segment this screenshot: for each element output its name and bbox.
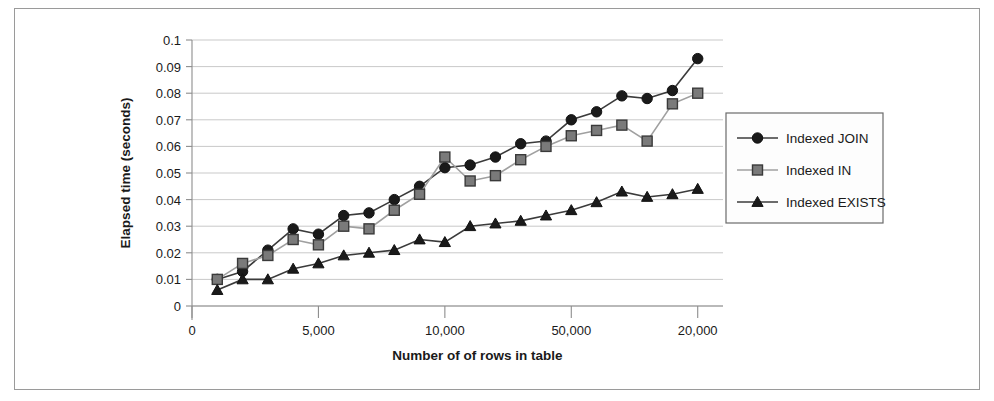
series-1-marker-6 <box>364 224 374 234</box>
series-0-marker-18 <box>667 85 677 95</box>
y-tick-label-9: 0.09 <box>156 60 181 75</box>
x-tick-label-1: 5,000 <box>302 323 335 338</box>
y-tick-label-7: 0.07 <box>156 113 181 128</box>
series-1-marker-18 <box>667 99 677 109</box>
y-tick-label-2: 0.02 <box>156 246 181 261</box>
series-1-marker-17 <box>642 136 652 146</box>
series-1-marker-13 <box>541 141 551 151</box>
series-1-marker-7 <box>389 205 399 215</box>
series-0-marker-3 <box>288 224 298 234</box>
x-tick-label-3: 50,000 <box>551 323 591 338</box>
series-0-marker-19 <box>693 53 703 63</box>
y-tick-label-6: 0.06 <box>156 139 181 154</box>
y-tick-label-5: 0.05 <box>156 166 181 181</box>
series-0-marker-11 <box>490 152 500 162</box>
series-1-marker-8 <box>415 189 425 199</box>
legend-1-marker-0 <box>753 165 763 175</box>
y-tick-label-1: 0.01 <box>156 272 181 287</box>
legend-label-1: Indexed IN <box>786 163 851 178</box>
x-tick-label-4: 20,000 <box>678 323 718 338</box>
series-1-marker-2 <box>263 250 273 260</box>
series-1-marker-3 <box>288 235 298 245</box>
series-1-marker-12 <box>516 155 526 165</box>
series-0-marker-10 <box>465 160 475 170</box>
series-0-marker-7 <box>389 194 399 204</box>
x-tick-label-0: 0 <box>188 323 195 338</box>
x-axis-title: Number of of rows in table <box>392 348 563 363</box>
series-0-marker-6 <box>364 208 374 218</box>
series-1-marker-11 <box>490 171 500 181</box>
series-1-marker-1 <box>238 258 248 268</box>
series-1-marker-10 <box>465 176 475 186</box>
series-1-marker-4 <box>313 240 323 250</box>
legend-label-0: Indexed JOIN <box>786 131 869 146</box>
series-1-marker-16 <box>617 120 627 130</box>
legend-label-2: Indexed EXISTS <box>786 195 886 210</box>
series-0-marker-12 <box>516 139 526 149</box>
y-tick-label-0: 0 <box>174 299 181 314</box>
chart-legend: Indexed JOINIndexed INIndexed EXISTS <box>726 113 886 223</box>
series-0-marker-17 <box>642 93 652 103</box>
series-0-marker-5 <box>339 210 349 220</box>
y-tick-label-4: 0.04 <box>156 193 181 208</box>
series-1-marker-15 <box>592 125 602 135</box>
series-1-marker-19 <box>693 88 703 98</box>
series-1-marker-14 <box>566 131 576 141</box>
y-tick-label-10: 0.1 <box>163 33 181 48</box>
legend-0-marker-0 <box>752 133 762 143</box>
y-axis-title: Elapsed time (seconds) <box>118 98 133 249</box>
series-1-marker-9 <box>440 152 450 162</box>
line-chart: 00.010.020.030.040.050.060.070.080.090.1… <box>0 0 994 401</box>
series-0-marker-15 <box>591 107 601 117</box>
series-0-marker-4 <box>313 229 323 239</box>
y-tick-label-3: 0.03 <box>156 219 181 234</box>
series-0-marker-16 <box>617 91 627 101</box>
chart-figure: 00.010.020.030.040.050.060.070.080.090.1… <box>0 0 994 401</box>
y-tick-label-8: 0.08 <box>156 86 181 101</box>
series-0-marker-9 <box>440 162 450 172</box>
series-1-marker-0 <box>212 274 222 284</box>
x-tick-label-2: 10,000 <box>425 323 465 338</box>
series-1-marker-5 <box>339 221 349 231</box>
series-0-marker-14 <box>566 115 576 125</box>
